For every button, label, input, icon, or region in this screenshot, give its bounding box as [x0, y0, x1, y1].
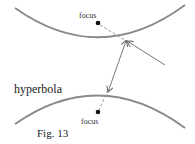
figure-caption: Fig. 13	[37, 128, 68, 139]
hyperbola-label: hyperbola	[14, 83, 62, 95]
lower-focus-dot	[96, 110, 101, 115]
lower-focus-label: focus	[81, 118, 98, 126]
lower-dashed-line	[99, 90, 108, 110]
upper-hyperbola-branch	[15, 5, 185, 37]
incident-ray-arrow	[127, 41, 165, 65]
upper-focus-dot	[96, 21, 101, 26]
reflected-ray-double-arrow	[108, 41, 126, 92]
upper-focus-label: focus	[79, 12, 96, 20]
